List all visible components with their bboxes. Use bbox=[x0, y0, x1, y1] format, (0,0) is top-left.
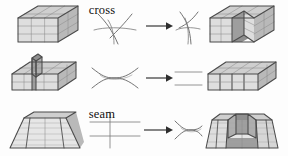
solid-seam-after bbox=[198, 52, 286, 104]
row-cross: cross bbox=[0, 0, 288, 52]
row-seam: seam bbox=[0, 52, 288, 104]
solid-seam-before bbox=[4, 52, 88, 104]
diagram-seam-before bbox=[88, 52, 144, 104]
arrow-seam bbox=[144, 52, 174, 104]
arrow-cross bbox=[144, 0, 174, 52]
diagram-blind-before bbox=[88, 104, 144, 156]
arrow-blind bbox=[144, 104, 174, 156]
row-blind-chord: blind chord bbox=[0, 104, 288, 156]
solid-cross-after bbox=[198, 0, 286, 52]
solid-cross-before bbox=[4, 0, 88, 52]
solid-blind-after bbox=[198, 104, 286, 156]
solid-blind-before bbox=[4, 104, 88, 156]
figure-canvas: cross bbox=[0, 0, 288, 156]
diagram-cross-before bbox=[88, 0, 144, 52]
